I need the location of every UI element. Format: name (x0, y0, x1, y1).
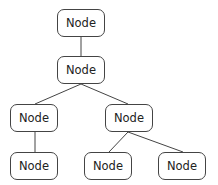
node-level1[interactable]: Node (57, 56, 105, 84)
node-right-child-right[interactable]: Node (158, 152, 206, 180)
edge-n2-n5 (81, 84, 128, 104)
edge-n5-n7 (128, 132, 183, 152)
edge-n5-n6 (109, 132, 128, 152)
node-root[interactable]: Node (57, 9, 105, 37)
node-left-child[interactable]: Node (10, 152, 58, 180)
node-right[interactable]: Node (105, 104, 153, 132)
edge-n2-n3 (35, 84, 81, 104)
node-right-child-left[interactable]: Node (84, 152, 132, 180)
node-left[interactable]: Node (10, 104, 58, 132)
